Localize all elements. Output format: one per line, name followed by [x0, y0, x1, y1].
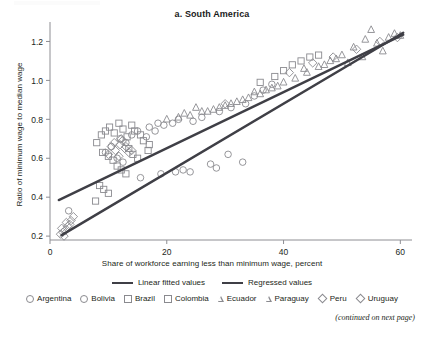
legend-marker-peru: Peru — [318, 294, 347, 303]
diamond-marker-icon — [355, 294, 365, 304]
square-marker-icon — [124, 295, 132, 303]
circle-marker-icon — [80, 295, 88, 303]
x-axis-title: Share of workforce earning less than min… — [0, 259, 424, 268]
legend-marker-label: Brazil — [135, 294, 155, 303]
y-axis-title: Ratio of minimum wage to median wage — [15, 30, 24, 240]
trend-line-linear — [59, 35, 403, 200]
legend-line-label: Linear fitted values — [138, 278, 205, 287]
legend-marker-colombia: Colombia — [164, 294, 209, 303]
legend-marker-label: Paraguay — [275, 294, 309, 303]
series-argentina — [65, 100, 248, 214]
scatter-plot: 0.20.40.60.81.01.20204060 — [0, 0, 424, 270]
legend-marker-argentina: Argentina — [26, 294, 71, 303]
svg-text:0.8: 0.8 — [31, 115, 43, 125]
svg-text:40: 40 — [279, 247, 289, 257]
figure-panel: a. South America 0.20.40.60.81.01.202040… — [0, 0, 424, 337]
legend-marker-label: Uruguay — [368, 294, 398, 303]
svg-text:0.2: 0.2 — [31, 231, 43, 241]
legend-marker-label: Colombia — [175, 294, 209, 303]
line-swatch-icon — [222, 282, 243, 284]
triangle-marker-icon — [218, 296, 224, 302]
circle-marker-icon — [26, 295, 34, 303]
legend-lines: Linear fitted valuesRegressed values — [0, 278, 424, 287]
legend-marker-bolivia: Bolivia — [80, 294, 115, 303]
svg-text:1.0: 1.0 — [31, 76, 43, 86]
triangle-marker-icon — [266, 296, 272, 302]
legend-marker-ecuador: Ecuador — [218, 294, 257, 303]
legend-line-entry: Regressed values — [222, 278, 312, 287]
trend-line-regressed — [62, 33, 404, 235]
legend-marker-uruguay: Uruguay — [356, 294, 398, 303]
diamond-marker-icon — [317, 294, 327, 304]
legend-markers: ArgentinaBoliviaBrazilColombiaEcuadorPar… — [0, 294, 424, 303]
svg-text:0.6: 0.6 — [31, 153, 43, 163]
legend-line-entry: Linear fitted values — [112, 278, 205, 287]
legend-marker-paraguay: Paraguay — [266, 294, 309, 303]
legend-line-label: Regressed values — [248, 278, 312, 287]
legend-marker-label: Argentina — [37, 294, 71, 303]
series-ecuador — [187, 32, 404, 118]
legend-marker-label: Peru — [330, 294, 347, 303]
svg-text:0: 0 — [48, 247, 53, 257]
svg-text:60: 60 — [396, 247, 406, 257]
svg-text:1.2: 1.2 — [31, 37, 43, 47]
continued-note: (continued on next page) — [335, 313, 415, 322]
legend-marker-label: Bolivia — [91, 294, 115, 303]
series-peru — [56, 137, 133, 239]
svg-text:0.4: 0.4 — [31, 192, 43, 202]
legend-marker-label: Ecuador — [227, 294, 257, 303]
square-marker-icon — [164, 295, 172, 303]
legend-marker-brazil: Brazil — [124, 294, 155, 303]
line-swatch-icon — [112, 282, 133, 284]
svg-text:20: 20 — [162, 247, 172, 257]
series-brazil — [92, 120, 134, 204]
